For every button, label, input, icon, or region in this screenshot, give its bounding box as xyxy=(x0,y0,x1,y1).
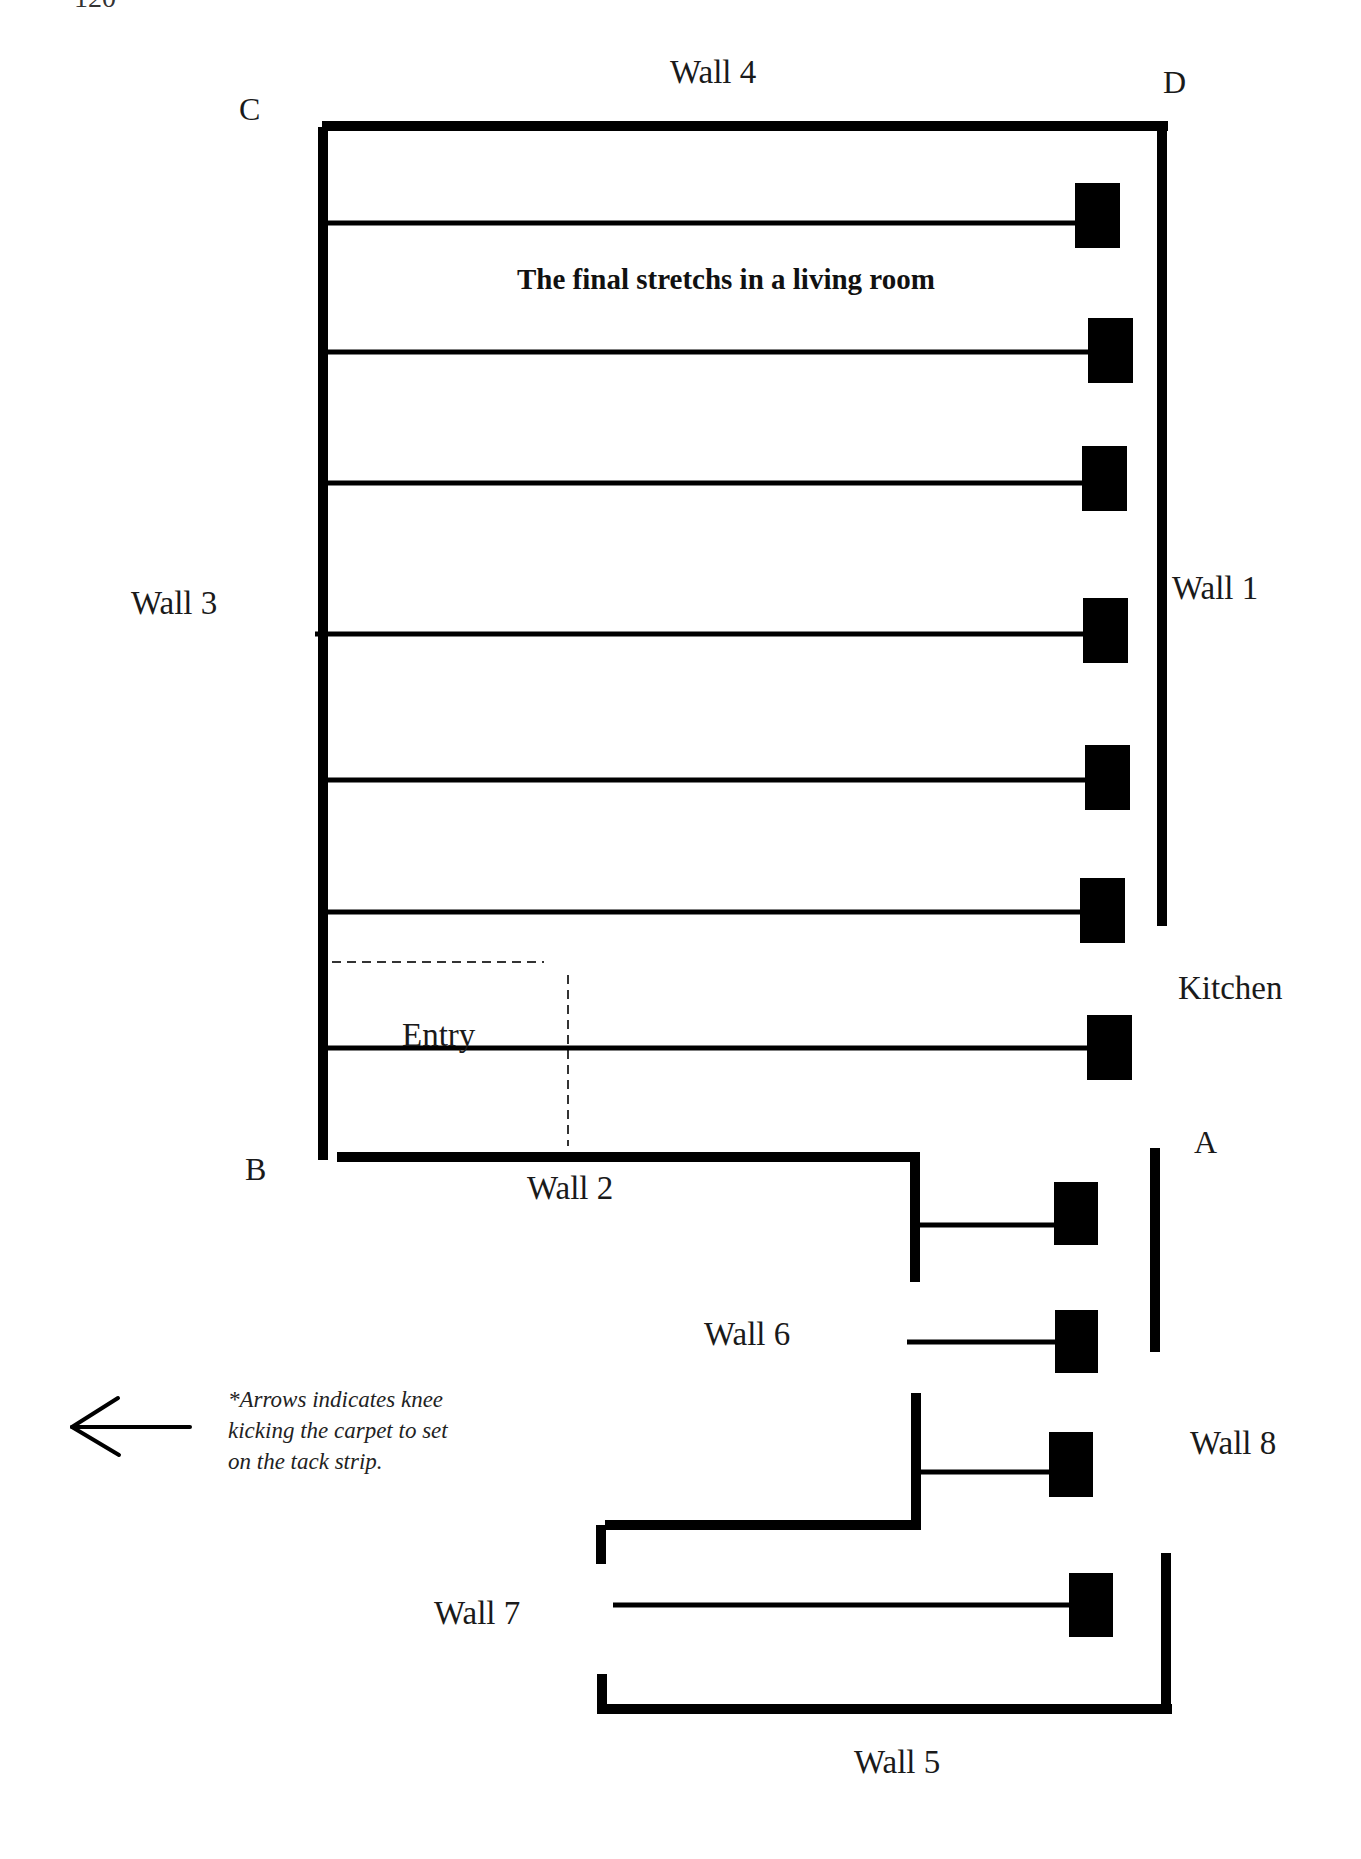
wall-2-line xyxy=(337,1152,920,1162)
knee-kicker-block-6 xyxy=(1080,878,1125,943)
wall-7-label: Wall 7 xyxy=(434,1597,520,1630)
kitchen-label: Kitchen xyxy=(1178,972,1282,1005)
knee-kicker-block-2 xyxy=(1088,318,1133,383)
wall-7-top-line xyxy=(605,1520,921,1530)
knee-kicker-block-1 xyxy=(1075,183,1120,248)
wall-7-top-stub xyxy=(596,1525,606,1564)
entry-label: Entry xyxy=(402,1019,475,1052)
wall-5-label: Wall 5 xyxy=(854,1746,940,1779)
diagram-title: The final stretchs in a living room xyxy=(517,265,935,294)
knee-kicker-block-11 xyxy=(1069,1573,1113,1637)
knee-kicker-block-7 xyxy=(1087,1015,1132,1080)
wall-1-line xyxy=(1157,121,1167,926)
knee-kicker-block-3 xyxy=(1082,446,1127,511)
stretch-line-6 xyxy=(318,910,1080,915)
stretch-line-4 xyxy=(315,632,1083,637)
corner-b-label: B xyxy=(245,1153,266,1185)
knee-kicker-block-8 xyxy=(1054,1182,1098,1245)
stretch-line-2 xyxy=(320,350,1088,355)
stretch-line-8 xyxy=(920,1223,1054,1228)
corner-a-label: A xyxy=(1194,1126,1217,1158)
stretch-line-10 xyxy=(921,1470,1049,1475)
wall-2-label: Wall 2 xyxy=(527,1172,613,1205)
wall-3-label: Wall 3 xyxy=(131,587,217,620)
wall-8-label: Wall 8 xyxy=(1190,1427,1276,1460)
stretch-line-3 xyxy=(320,481,1082,486)
wall-a-line xyxy=(1150,1148,1160,1352)
wall-5-line xyxy=(601,1704,1172,1714)
wall-4-label: Wall 4 xyxy=(670,56,756,89)
knee-kicker-block-10 xyxy=(1049,1432,1093,1497)
stretch-line-9 xyxy=(907,1340,1055,1345)
stretch-line-11 xyxy=(613,1603,1069,1608)
wall-6-lower-line xyxy=(911,1393,921,1530)
left-arrow-icon xyxy=(72,1398,190,1455)
wall-8-lower-line xyxy=(1161,1553,1171,1713)
page-number: 120 xyxy=(74,0,116,12)
wall-6-label: Wall 6 xyxy=(704,1318,790,1351)
knee-kicker-block-5 xyxy=(1085,745,1130,810)
knee-kicker-block-9 xyxy=(1055,1310,1098,1373)
wall-1-label: Wall 1 xyxy=(1172,572,1258,605)
knee-kicker-block-4 xyxy=(1083,598,1128,663)
corner-c-label: C xyxy=(239,93,260,125)
stretch-line-5 xyxy=(322,778,1085,783)
wall-3-line xyxy=(318,127,328,1160)
legend-note: *Arrows indicates knee kicking the carpe… xyxy=(228,1384,448,1477)
corner-d-label: D xyxy=(1163,66,1186,98)
wall-4-line xyxy=(322,121,1168,131)
stretch-line-1 xyxy=(318,221,1075,226)
wall-2-drop-line xyxy=(910,1152,920,1282)
